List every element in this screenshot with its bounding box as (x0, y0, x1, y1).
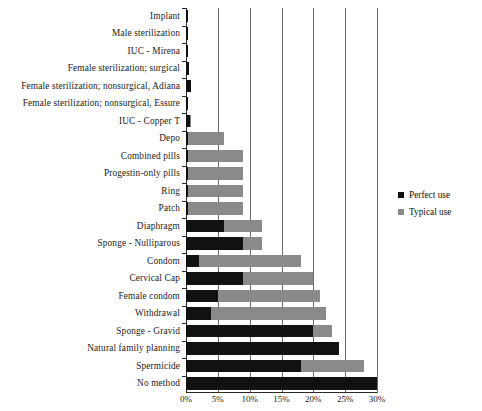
category-label: Female condom (118, 292, 180, 301)
category-label: Implant (150, 12, 180, 21)
bar-row: Sponge - Nulliparous (0, 236, 482, 254)
bar-perfect-use (186, 167, 188, 180)
x-axis-tick-label: 0% (180, 394, 192, 404)
bar-row: Male sterilization (0, 26, 482, 44)
bar-row: Combined pills (0, 148, 482, 166)
x-axis-tick-label: 5% (212, 394, 224, 404)
bar-group (186, 288, 377, 306)
bar-row: Depo (0, 131, 482, 149)
bar-perfect-use (186, 132, 188, 145)
bar-group (186, 253, 377, 271)
bar-row: Progestin-only pills (0, 166, 482, 184)
legend-swatch-icon (398, 192, 404, 198)
x-axis-tick-label: 30% (369, 394, 386, 404)
bar-group (186, 306, 377, 324)
bar-group (186, 183, 377, 201)
bar-row: IUC - Mirena (0, 43, 482, 61)
bar-perfect-use (186, 62, 189, 75)
legend-label: Typical use (409, 207, 451, 217)
legend-item: Perfect use (398, 190, 480, 200)
bar-row: Female sterilization; nonsurgical, Essur… (0, 96, 482, 114)
category-label: Cervical Cap (129, 275, 180, 284)
bar-group (186, 358, 377, 376)
category-label: Female sterilization; nonsurgical, Adian… (21, 82, 180, 91)
bar-perfect-use (186, 202, 188, 215)
category-label: Condom (147, 257, 180, 266)
bar-row: Sponge - Gravid (0, 323, 482, 341)
bar-perfect-use (186, 45, 188, 58)
bar-typical-use (186, 185, 243, 198)
bar-group (186, 148, 377, 166)
bar-typical-use (186, 150, 243, 163)
category-label: Sponge - Nulliparous (97, 240, 180, 249)
x-axis-tick-label: 10% (241, 394, 258, 404)
bar-group (186, 201, 377, 219)
bar-perfect-use (186, 220, 224, 233)
category-label: Female sterilization; surgical (68, 65, 180, 74)
bar-row: Implant (0, 8, 482, 26)
bar-group (186, 43, 377, 61)
contraceptive-failure-rate-chart: ImplantMale sterilizationIUC - MirenaFem… (0, 0, 482, 411)
bar-perfect-use (186, 342, 339, 355)
bar-group (186, 96, 377, 114)
bar-perfect-use (186, 10, 188, 23)
bar-typical-use (186, 167, 243, 180)
bar-perfect-use (186, 325, 313, 338)
category-label: Ring (161, 187, 180, 196)
bar-row: No method (0, 376, 482, 394)
bar-group (186, 236, 377, 254)
bar-perfect-use (186, 150, 188, 163)
bar-perfect-use (186, 307, 211, 320)
bar-perfect-use (186, 290, 218, 303)
category-label: Depo (159, 135, 180, 144)
x-axis-baseline (186, 392, 377, 393)
bar-row: Natural family planning (0, 341, 482, 359)
x-axis-tick-label: 15% (273, 394, 290, 404)
category-label: Female sterilization; nonsurgical, Essur… (23, 100, 180, 109)
x-axis-tick-label: 25% (337, 394, 354, 404)
bar-perfect-use (186, 80, 191, 93)
bar-group (186, 8, 377, 26)
bar-group (186, 113, 377, 131)
bar-row: Spermicide (0, 358, 482, 376)
legend-item: Typical use (398, 207, 480, 217)
chart-legend: Perfect useTypical use (398, 190, 480, 224)
bar-row: Female condom (0, 288, 482, 306)
category-label: Natural family planning (87, 345, 180, 354)
bar-perfect-use (186, 97, 188, 110)
category-label: Sponge - Gravid (116, 327, 180, 336)
bar-perfect-use (186, 272, 243, 285)
bar-typical-use (186, 132, 224, 145)
x-axis-tick-labels: 0%5%10%15%20%25%30% (186, 394, 377, 410)
bar-perfect-use (186, 255, 199, 268)
bar-perfect-use (186, 237, 243, 250)
bar-group (186, 61, 377, 79)
bar-group (186, 131, 377, 149)
bar-group (186, 166, 377, 184)
bar-group (186, 26, 377, 44)
legend-swatch-icon (398, 209, 404, 215)
bar-typical-use (186, 255, 301, 268)
bar-perfect-use (186, 377, 377, 390)
bar-group (186, 271, 377, 289)
category-label: Combined pills (121, 152, 180, 161)
bar-group (186, 376, 377, 394)
bar-group (186, 341, 377, 359)
bar-group (186, 218, 377, 236)
bar-perfect-use (186, 185, 188, 198)
bar-row: Female sterilization; nonsurgical, Adian… (0, 78, 482, 96)
bar-row: Cervical Cap (0, 271, 482, 289)
category-label: IUC - Mirena (128, 47, 180, 56)
category-label: IUC - Copper T (119, 117, 180, 126)
category-label: Male sterilization (112, 30, 180, 39)
bar-row: Female sterilization; surgical (0, 61, 482, 79)
bar-row: Condom (0, 253, 482, 271)
bar-row: Withdrawal (0, 306, 482, 324)
bar-row: IUC - Copper T (0, 113, 482, 131)
legend-label: Perfect use (409, 190, 450, 200)
bar-perfect-use (186, 360, 301, 373)
bar-group (186, 323, 377, 341)
bar-perfect-use (186, 27, 188, 40)
category-label: Progestin-only pills (104, 170, 180, 179)
bar-group (186, 78, 377, 96)
